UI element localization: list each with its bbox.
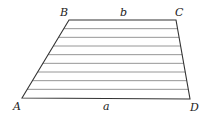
vertex-label-a: A <box>12 100 21 113</box>
trapezoid-outline <box>22 20 190 99</box>
side-label-a: a <box>103 100 110 113</box>
vertex-label-b: B <box>59 6 68 19</box>
side-label-b: b <box>120 6 127 19</box>
horizontal-slices <box>27 29 188 90</box>
vertex-label-d: D <box>189 101 199 114</box>
vertex-label-c: C <box>175 6 184 19</box>
trapezoid-diagram: A B C D b a <box>0 0 207 116</box>
